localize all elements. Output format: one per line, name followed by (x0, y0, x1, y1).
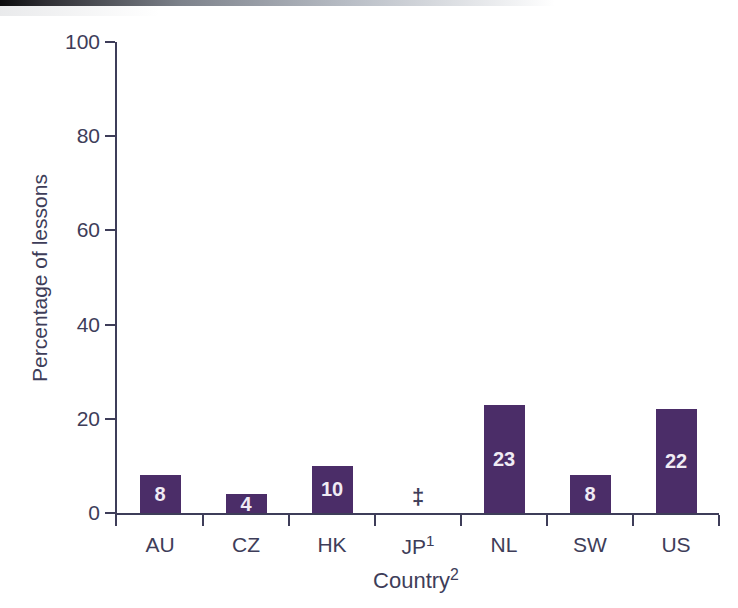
bar-hk: 10 (312, 466, 353, 513)
category-label-jp: JP1 (375, 533, 461, 558)
bar-value-label: 8 (584, 484, 595, 504)
bar-sw: 8 (570, 475, 611, 513)
category-label-cz: CZ (203, 533, 289, 556)
x-axis-tick (115, 515, 117, 526)
y-axis-tick (105, 229, 115, 231)
y-axis-tick (105, 324, 115, 326)
x-axis-tick (632, 515, 634, 526)
y-axis-tick-label: 100 (65, 30, 100, 54)
bar-value-label: 22 (665, 451, 687, 471)
bar-cz: 4 (226, 494, 267, 513)
scanned-page: Percentage of lessons 0204060801008AU4CZ… (0, 0, 738, 608)
bar-chart: Percentage of lessons 0204060801008AU4CZ… (0, 0, 738, 608)
category-label-sw: SW (547, 533, 633, 556)
x-axis-title: Country2 (115, 566, 717, 594)
y-axis-tick (105, 135, 115, 137)
y-axis-tick (105, 41, 115, 43)
x-axis-title-sup: 2 (450, 566, 459, 583)
y-axis-title-text: Percentage of lessons (28, 174, 51, 382)
x-axis-tick (288, 515, 290, 526)
bar-value-label: 8 (154, 484, 165, 504)
category-label-sup: 1 (426, 532, 434, 549)
y-axis-tick-label: 40 (77, 313, 100, 337)
category-label-us: US (633, 533, 719, 556)
y-axis-tick-label: 60 (77, 218, 100, 242)
x-axis-tick (374, 515, 376, 526)
bar-value-label: 10 (321, 479, 343, 499)
bar-nl: 23 (484, 405, 525, 513)
bar-au: 8 (140, 475, 181, 513)
y-axis-tick (105, 418, 115, 420)
x-axis-title-text: Country (373, 568, 450, 593)
x-axis-tick (546, 515, 548, 526)
y-axis-title: Percentage of lessons (28, 174, 52, 382)
y-axis-tick (105, 512, 115, 514)
x-axis-tick (460, 515, 462, 526)
x-axis-tick (718, 515, 720, 526)
y-axis-tick-label: 20 (77, 407, 100, 431)
bar-value-label: 23 (493, 449, 515, 469)
suppressed-data-marker: ‡ (412, 486, 424, 508)
category-label-hk: HK (289, 533, 375, 556)
plot-area: 0204060801008AU4CZ10HK‡JP123NL8SW22US (115, 42, 719, 515)
category-label-nl: NL (461, 533, 547, 556)
x-axis-tick (202, 515, 204, 526)
category-label-au: AU (117, 533, 203, 556)
y-axis-tick-label: 80 (77, 124, 100, 148)
bar-us: 22 (656, 409, 697, 513)
y-axis-tick-label: 0 (88, 501, 100, 525)
bar-value-label: 4 (240, 494, 251, 514)
